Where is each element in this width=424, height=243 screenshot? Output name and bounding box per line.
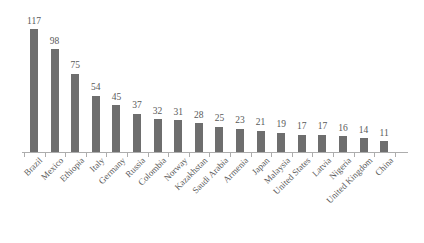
- bar-group: 11: [374, 1, 394, 153]
- bar[interactable]: [92, 96, 100, 153]
- bar-value-label: 17: [318, 122, 328, 132]
- bar-group: 17: [292, 1, 312, 153]
- plot-area: 1179875544537323128252321191717161411: [0, 0, 424, 153]
- bar-value-label: 21: [256, 118, 266, 128]
- bar-group: 98: [45, 1, 65, 153]
- bar[interactable]: [174, 120, 182, 153]
- axis-tick: [230, 153, 231, 157]
- bar-value-label: 54: [91, 83, 101, 93]
- bar-value-label: 19: [276, 120, 286, 130]
- bar[interactable]: [215, 127, 223, 153]
- axis-tick: [292, 153, 293, 157]
- bar-group: 32: [148, 1, 168, 153]
- bar-group: 23: [230, 1, 250, 153]
- bar-value-label: 37: [132, 101, 142, 111]
- bar-value-label: 32: [153, 107, 163, 117]
- bar[interactable]: [71, 74, 79, 153]
- axis-tick: [374, 153, 375, 157]
- bar[interactable]: [133, 114, 141, 153]
- bar-group: 14: [354, 1, 374, 153]
- axis-tick: [86, 153, 87, 157]
- bar-value-label: 14: [359, 126, 369, 136]
- bar-group: 45: [106, 1, 126, 153]
- axis-tick: [148, 153, 149, 157]
- bar-group: 28: [189, 1, 209, 153]
- bar-value-label: 98: [50, 37, 60, 47]
- bar-value-label: 75: [70, 61, 80, 71]
- bar[interactable]: [257, 131, 265, 153]
- axis-tick: [395, 153, 396, 157]
- bar-group: 54: [86, 1, 106, 153]
- axis-tick: [106, 153, 107, 157]
- bar-group: 21: [251, 1, 271, 153]
- axis-tick: [65, 153, 66, 157]
- bar-group: 31: [168, 1, 188, 153]
- bar-value-label: 45: [112, 93, 122, 103]
- axis-tick: [189, 153, 190, 157]
- bar-value-label: 31: [173, 108, 183, 118]
- bar-value-label: 25: [215, 114, 225, 124]
- bar[interactable]: [51, 49, 59, 153]
- bar-group: 16: [333, 1, 353, 153]
- bar-group: 75: [65, 1, 85, 153]
- axis-tick: [271, 153, 272, 157]
- axis-tick: [251, 153, 252, 157]
- bar[interactable]: [30, 29, 38, 153]
- axis-tick: [312, 153, 313, 157]
- axis-tick: [127, 153, 128, 157]
- x-axis-category-labels: BrazilMexicoEthiopiaItalyGermanyRussiaCo…: [0, 153, 424, 243]
- bar-group: 25: [209, 1, 229, 153]
- bar[interactable]: [277, 133, 285, 153]
- bar-value-label: 11: [380, 129, 389, 139]
- bar[interactable]: [298, 135, 306, 153]
- bar-value-label: 117: [27, 17, 41, 27]
- bar-group: 117: [24, 1, 44, 153]
- bar[interactable]: [339, 136, 347, 153]
- bar-group: 19: [271, 1, 291, 153]
- category-label: China: [373, 156, 395, 178]
- axis-tick: [168, 153, 169, 157]
- bar-value-label: 23: [235, 116, 245, 126]
- bar-value-label: 28: [194, 111, 204, 121]
- bar[interactable]: [236, 129, 244, 153]
- axis-tick: [45, 153, 46, 157]
- axis-tick: [354, 153, 355, 157]
- bar[interactable]: [360, 138, 368, 153]
- bar-group: 37: [127, 1, 147, 153]
- bar-value-label: 17: [297, 122, 307, 132]
- axis-tick: [333, 153, 334, 157]
- bar-chart: 1179875544537323128252321191717161411 Br…: [0, 0, 424, 243]
- axis-tick: [209, 153, 210, 157]
- bar-group: 17: [312, 1, 332, 153]
- bar[interactable]: [154, 119, 162, 153]
- axis-tick: [24, 153, 25, 157]
- bar[interactable]: [112, 105, 120, 153]
- bar-value-label: 16: [338, 124, 348, 134]
- bar[interactable]: [195, 123, 203, 153]
- bar[interactable]: [318, 135, 326, 153]
